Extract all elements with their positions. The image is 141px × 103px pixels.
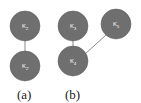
node-a2: K2' [10,51,40,81]
node-a1: K2 [10,11,40,41]
edge-b3-b2 [85,35,106,54]
node-b2: K5 [101,9,131,39]
node-b1: K3 [58,11,88,41]
caption-a: (a) [17,87,31,102]
caption-b: (b) [65,87,80,102]
diagram-canvas: K2 K2' K3 K5 K4 (a) (b) [0,0,141,103]
node-b3: K4 [58,46,88,76]
